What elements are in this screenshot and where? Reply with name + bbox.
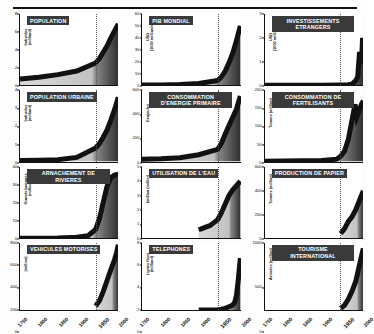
x-tick-label: 2000 xyxy=(362,316,374,328)
y-axis-label-pib-mondial: USD(1000 milliards) xyxy=(146,23,155,51)
y-tick-label: 4 xyxy=(137,285,139,289)
y-tick-label: 100 xyxy=(255,124,262,128)
x-tick-mark xyxy=(58,310,59,311)
y-tick-label: 50 xyxy=(257,142,262,146)
panel-title-tourisme-international: TOURISME INTERNATIONAL xyxy=(272,245,355,261)
x-axis-labels: 175018001850190019502000 xyxy=(139,312,244,334)
x-tick-mark xyxy=(58,238,59,239)
x-tick-mark xyxy=(321,238,322,239)
y-axis-consommation-d-energie-primaire: 0200400600 xyxy=(124,90,141,162)
x-tick-mark xyxy=(39,162,40,163)
divider-1950 xyxy=(218,243,219,310)
y-tick-label: 200 xyxy=(10,308,17,312)
plot-area-pib-mondial: PIB MONDIALUSD(1000 milliards) xyxy=(141,14,240,86)
x-tick-mark xyxy=(340,162,341,163)
y-tick-label: 4 xyxy=(15,88,17,92)
panel-investissements-etrangers: 0123INVESTISSEMENTS ETRANGERSUSD(1000 mi… xyxy=(245,12,367,88)
x-tick-mark xyxy=(39,310,40,311)
plot-area-arnachement-de-rivieres: ARNACHEMENT DE RIVIERESGrands barrages(m… xyxy=(19,167,118,239)
plot-area-vehicules-motorises: VEHICULES MOTORISES(million) xyxy=(19,243,118,311)
top-rule-divider xyxy=(13,7,357,9)
x-tick-mark xyxy=(237,238,238,239)
y-tick-label: 4 xyxy=(15,48,17,52)
panel-utilisation-de-l-eau: 012345UTILISATION DE L'EAUkm3/an (millie… xyxy=(122,165,244,241)
x-tick-label: 1900 xyxy=(322,316,334,328)
plot-area-utilisation-de-l-eau: UTILISATION DE L'EAUkm3/an (millier) xyxy=(141,167,240,239)
y-tick-label: 1000 xyxy=(252,241,261,245)
y-tick-label: 30 xyxy=(135,48,140,52)
x-tick-mark xyxy=(180,238,181,239)
panel-title-investissements-etrangers: INVESTISSEMENTS ETRANGERS xyxy=(272,16,355,32)
series-line xyxy=(265,38,363,86)
x-tick-mark xyxy=(199,85,200,86)
x-tick-mark xyxy=(359,238,360,239)
y-tick-label: 200 xyxy=(255,88,262,92)
y-tick-label: 600 xyxy=(255,164,262,168)
x-tick-mark xyxy=(359,310,360,311)
plot-area-population: POPULATIONIndividus(milliard) xyxy=(19,14,118,86)
x-tick-label: 1800 xyxy=(37,316,49,328)
plot-wrap-population: 02468POPULATIONIndividus(milliard) xyxy=(2,14,118,86)
x-tick-mark xyxy=(115,238,116,239)
x-tick-mark xyxy=(20,238,21,239)
x-tick-mark xyxy=(237,310,238,311)
x-tick-mark xyxy=(77,310,78,311)
x-tick-mark xyxy=(58,162,59,163)
plot-wrap-utilisation-de-l-eau: 012345UTILISATION DE L'EAUkm3/an (millie… xyxy=(124,167,240,239)
x-tick-mark xyxy=(20,310,21,311)
plot-wrap-investissements-etrangers: 0123INVESTISSEMENTS ETRANGERSUSD(1000 mi… xyxy=(247,14,363,86)
y-axis-production-de-papier: 0200400600 xyxy=(247,167,264,239)
plot-wrap-population-urbaine: 01234POPULATION URBAINEIndividus(milliar… xyxy=(2,90,118,162)
area-fill xyxy=(265,38,363,86)
y-axis-utilisation-de-l-eau: 012345 xyxy=(124,167,141,239)
panel-title-consommation-de-fertilisants: CONSOMMATION DE FERTILISANTS xyxy=(272,92,355,108)
plot-wrap-arnachement-de-rivieres: 010203040ARNACHEMENT DE RIVIERESGrands b… xyxy=(2,167,118,239)
y-tick-label: 400 xyxy=(10,285,17,289)
x-tick-label: 1950 xyxy=(342,316,355,329)
plot-wrap-pib-mondial: 0102030405060PIB MONDIALUSD(1000 milliar… xyxy=(124,14,240,86)
panel-title-population-urbaine: POPULATION URBAINE xyxy=(27,92,97,101)
x-tick-mark xyxy=(340,238,341,239)
x-tick-mark xyxy=(96,238,97,239)
x-tick-mark xyxy=(321,310,322,311)
x-tick-label: 1850 xyxy=(301,316,313,328)
x-tick-mark xyxy=(265,238,266,239)
x-tick-mark xyxy=(265,85,266,86)
x-tick-label: 1900 xyxy=(199,316,211,328)
x-tick-mark xyxy=(284,310,285,311)
x-tick-mark xyxy=(218,310,219,311)
plot-wrap-consommation-d-energie-primaire: 0200400600CONSOMMATION D'ENERGIE PRIMAIR… xyxy=(124,90,240,162)
x-tick-mark xyxy=(321,162,322,163)
x-tick-label: 1950 xyxy=(220,316,233,329)
y-tick-label: 4 xyxy=(137,179,139,183)
y-axis-population: 02468 xyxy=(2,14,19,86)
plot-wrap-consommation-de-fertilisants: 050100150200CONSOMMATION DE FERTILISANTS… xyxy=(247,90,363,162)
y-tick-label: 10 xyxy=(135,72,140,76)
y-tick-label: 60 xyxy=(135,12,140,16)
y-axis-consommation-de-fertilisants: 050100150200 xyxy=(247,90,264,162)
x-tick-mark xyxy=(199,238,200,239)
x-tick-mark xyxy=(115,310,116,311)
x-tick-mark xyxy=(142,238,143,239)
y-tick-label: 500 xyxy=(255,285,262,289)
y-axis-pib-mondial: 0102030405060 xyxy=(124,14,141,86)
y-tick-label: 3 xyxy=(15,106,17,110)
x-tick-mark xyxy=(218,238,219,239)
x-tick-mark xyxy=(39,85,40,86)
y-axis-investissements-etrangers: 0123 xyxy=(247,14,264,86)
panel-consommation-d-energie-primaire: 0200400600CONSOMMATION D'ENERGIE PRIMAIR… xyxy=(122,88,244,164)
y-tick-label: 3 xyxy=(259,12,261,16)
y-tick-label: 20 xyxy=(135,60,140,64)
x-tick-mark xyxy=(161,85,162,86)
panel-population-urbaine: 01234POPULATION URBAINEIndividus(milliar… xyxy=(0,88,122,164)
x-tick-label: 1850 xyxy=(179,316,191,328)
x-tick-mark xyxy=(77,238,78,239)
y-tick-label: 1 xyxy=(259,60,261,64)
panel-title-population: POPULATION xyxy=(27,16,69,25)
divider-1950 xyxy=(96,14,97,85)
y-tick-label: 600 xyxy=(10,263,17,267)
y-tick-label: 8 xyxy=(137,241,139,245)
y-tick-label: 10 xyxy=(12,219,17,223)
x-tick-mark xyxy=(77,85,78,86)
x-tick-mark xyxy=(340,85,341,86)
